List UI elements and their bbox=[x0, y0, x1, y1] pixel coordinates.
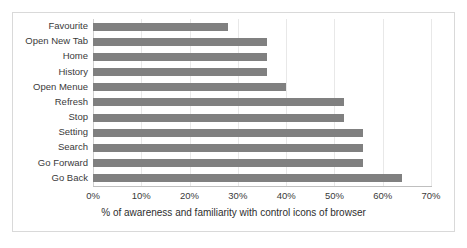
bar-row: Refresh bbox=[93, 95, 431, 110]
bar bbox=[93, 98, 344, 106]
x-tick-label: 30% bbox=[218, 189, 258, 202]
bar bbox=[93, 174, 402, 182]
bar-series: FavouriteOpen New TabHomeHistoryOpen Men… bbox=[93, 19, 431, 186]
bar-row: Open New Tab bbox=[93, 34, 431, 49]
x-tick-label: 10% bbox=[121, 189, 161, 202]
x-tick-label: 0% bbox=[73, 189, 113, 202]
x-axis-line bbox=[93, 186, 432, 187]
category-label: Refresh bbox=[0, 94, 88, 109]
x-axis-title: % of awareness and familiarity with cont… bbox=[13, 207, 454, 218]
category-label: Open Menue bbox=[0, 79, 88, 94]
x-tick-label: 20% bbox=[170, 189, 210, 202]
category-label: Go Back bbox=[0, 170, 88, 185]
bar-row: Search bbox=[93, 140, 431, 155]
category-label: Search bbox=[0, 139, 88, 154]
bar bbox=[93, 68, 267, 76]
x-tick-label: 40% bbox=[266, 189, 306, 202]
bar-row: Open Menue bbox=[93, 80, 431, 95]
bar bbox=[93, 38, 267, 46]
x-tick-label: 50% bbox=[314, 189, 354, 202]
category-label: Setting bbox=[0, 124, 88, 139]
category-label: Stop bbox=[0, 109, 88, 124]
bar bbox=[93, 114, 344, 122]
category-label: Go Forward bbox=[0, 155, 88, 170]
category-label: Open New Tab bbox=[0, 33, 88, 48]
bar bbox=[93, 83, 286, 91]
bar bbox=[93, 129, 363, 137]
bar-row: Go Back bbox=[93, 171, 431, 186]
category-label: Favourite bbox=[0, 18, 88, 33]
bar bbox=[93, 144, 363, 152]
bar-row: Stop bbox=[93, 110, 431, 125]
bar-row: Go Forward bbox=[93, 156, 431, 171]
bar-row: Favourite bbox=[93, 19, 431, 34]
bar bbox=[93, 159, 363, 167]
bar-row: History bbox=[93, 65, 431, 80]
plot-wrapper: FavouriteOpen New TabHomeHistoryOpen Men… bbox=[13, 13, 454, 231]
gridline-70% bbox=[431, 19, 432, 186]
plot-area: FavouriteOpen New TabHomeHistoryOpen Men… bbox=[93, 19, 431, 186]
chart-container: FavouriteOpen New TabHomeHistoryOpen Men… bbox=[12, 12, 455, 232]
x-tick-label: 60% bbox=[363, 189, 403, 202]
x-tick-label: 70% bbox=[411, 189, 451, 202]
bar bbox=[93, 53, 267, 61]
category-label: Home bbox=[0, 48, 88, 63]
bar-row: Home bbox=[93, 49, 431, 64]
bar-row: Setting bbox=[93, 125, 431, 140]
category-label: History bbox=[0, 64, 88, 79]
bar bbox=[93, 23, 228, 31]
